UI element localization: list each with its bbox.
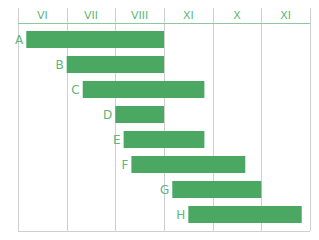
row-label-c: C xyxy=(71,83,79,97)
gantt-chart: VIVIIVIIIXIXXI ABCDEFGH xyxy=(0,0,319,240)
row-label-f: F xyxy=(121,158,128,172)
bar-e xyxy=(124,131,205,148)
row-label-a: A xyxy=(15,33,24,47)
bar-c xyxy=(83,81,205,98)
row-label-b: B xyxy=(55,58,63,72)
x-tick-label: VIII xyxy=(131,9,148,22)
bar-h xyxy=(188,206,301,223)
x-tick-label: VI xyxy=(37,9,48,22)
x-tick-label: XI xyxy=(280,9,291,22)
row-label-d: D xyxy=(103,108,112,122)
bar-g xyxy=(172,181,261,198)
x-tick-label: XI xyxy=(183,9,194,22)
row-label-h: H xyxy=(176,208,185,222)
bar-a xyxy=(26,31,164,48)
x-tick-label: VII xyxy=(84,9,98,22)
bar-f xyxy=(131,156,245,173)
row-label-e: E xyxy=(113,133,121,147)
bar-b xyxy=(67,56,164,73)
x-tick-label: X xyxy=(233,9,241,22)
bar-d xyxy=(115,106,164,123)
row-label-g: G xyxy=(160,183,169,197)
